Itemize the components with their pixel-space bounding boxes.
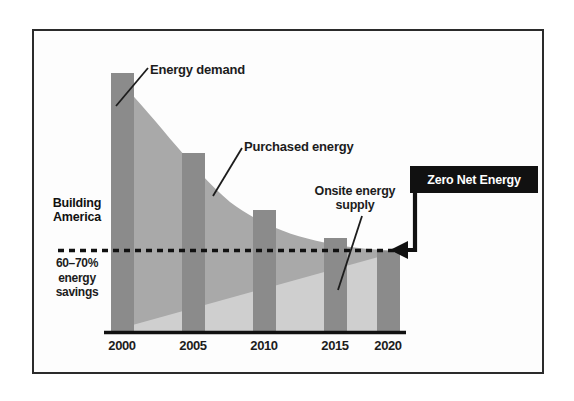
bar-2010 xyxy=(253,210,276,331)
energy-demand-label: Energy demand xyxy=(150,63,245,78)
xtick-2005: 2005 xyxy=(171,338,215,353)
building-america-line2: America xyxy=(46,210,108,224)
energy-savings-line3: savings xyxy=(44,285,110,300)
zero-net-energy-label: Zero Net Energy xyxy=(427,173,521,187)
energy-savings-label: 60–70% energy savings xyxy=(44,256,110,300)
zero-net-connector xyxy=(402,193,415,250)
energy-savings-line2: energy xyxy=(44,271,110,286)
bar-2020 xyxy=(377,251,400,331)
xtick-2000: 2000 xyxy=(100,338,144,353)
purchased-energy-leader-line xyxy=(213,148,242,196)
building-america-line1: Building xyxy=(46,196,108,210)
zero-net-energy-callout: Zero Net Energy xyxy=(410,166,538,193)
xtick-2010: 2010 xyxy=(242,338,286,353)
bar-2000 xyxy=(111,73,134,331)
purchased-energy-label: Purchased energy xyxy=(244,140,354,155)
building-america-label: Building America xyxy=(46,196,108,224)
bar-2005 xyxy=(182,153,205,331)
figure-page: Building America 60–70% energy savings E… xyxy=(0,0,574,401)
xtick-2015: 2015 xyxy=(313,338,357,353)
energy-savings-line1: 60–70% xyxy=(44,256,110,271)
xtick-2020: 2020 xyxy=(366,338,410,353)
onsite-energy-label: Onsite energy supply xyxy=(313,184,397,212)
